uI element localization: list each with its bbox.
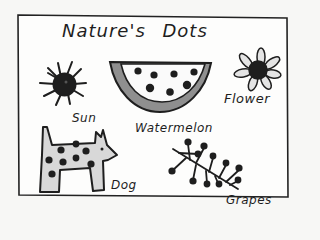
dog-label: Dog bbox=[111, 178, 137, 192]
flower-label: Flower bbox=[224, 91, 270, 106]
watermelon-label: Watermelon bbox=[135, 121, 213, 135]
sun-label: Sun bbox=[72, 111, 96, 125]
grapes-label: Grapes bbox=[226, 193, 272, 207]
page-title: Nature's Dots bbox=[62, 20, 208, 41]
